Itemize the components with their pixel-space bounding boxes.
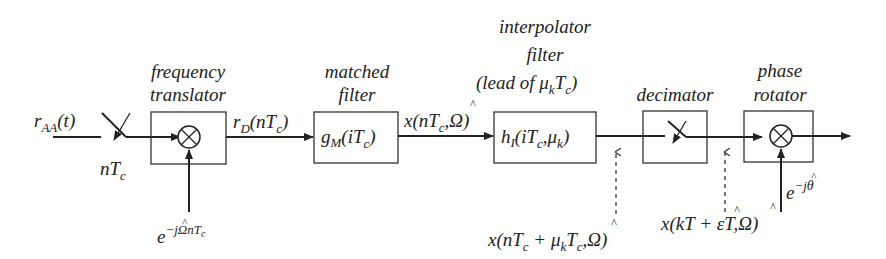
multiplier-icon [770,125,792,147]
svg-text:rAA(t): rAA(t) [34,110,75,135]
decimator-switch-icon [668,121,686,143]
matched-filter-caption-2: filter [339,84,377,105]
freq-correction-label: e−jΩnTc ^ [157,216,206,247]
matched-filter-caption-1: matched [325,61,390,82]
phase-rotator-caption-2: rotator [753,84,807,105]
block-phase-rotator: phase rotator [744,60,813,162]
decimator-caption: decimator [636,84,714,105]
block-frequency-translator: frequency translator [150,61,227,164]
frequency-translator-caption-2: translator [150,84,227,105]
block-decimator: decimator [636,84,714,163]
svg-text:hI(iTc,μk): hI(iTc,μk) [501,126,569,151]
svg-text:gM(iTc): gM(iTc) [321,126,376,151]
frequency-translator-caption-1: frequency [151,61,226,82]
interp-output-label: x(nTc + μkTc,Ω) ^ [487,216,617,254]
block-matched-filter: matched filter gM(iTc) [314,61,398,163]
svg-text:^: ^ [470,97,476,111]
interpolator-caption-2: filter [527,44,565,65]
matched-output-label: x(nTc,Ω) ^ [403,97,476,135]
svg-text:^: ^ [811,170,817,182]
multiplier-icon [178,126,200,148]
svg-text:x(nTc + μkTc,Ω): x(nTc + μkTc,Ω) [487,229,607,254]
phase-rotator-caption-1: phase [756,60,802,81]
svg-text:^: ^ [770,200,776,214]
sampler-label: nTc [100,158,126,183]
svg-text:x(nTc,Ω): x(nTc,Ω) [403,110,469,135]
input-signal-label: rAA(t) [34,110,75,135]
block-interpolator-filter: interpolator filter (lead of μkTc) hI(iT… [476,16,596,163]
receiver-block-diagram: rAA(t) nTc frequency translator e−jΩnTc … [0,0,886,259]
svg-text:x(kT + εT,Ω): x(kT + εT,Ω) [660,213,758,235]
phase-correction-label: e−jθ ^ [786,170,817,203]
svg-text:e−jθ: e−jθ [786,178,814,203]
svg-text:^: ^ [611,216,617,230]
interpolator-caption-1: interpolator [499,16,591,37]
rD-label: rD(nTc) [233,111,288,136]
interpolator-caption-3: (lead of μkTc) [476,72,577,97]
decimator-output-label: x(kT + εT,Ω) ^ ^ [660,200,776,235]
sampler-switch-icon [102,113,130,140]
